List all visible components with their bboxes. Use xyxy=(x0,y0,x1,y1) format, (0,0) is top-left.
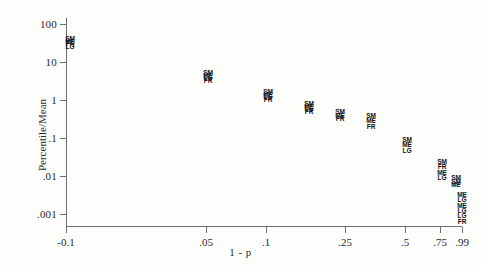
x-tick-label: .1 xyxy=(262,236,270,248)
data-cluster: SM ME FR xyxy=(335,110,345,121)
y-tick-mark xyxy=(60,214,66,215)
data-cluster: SM ME FR xyxy=(366,113,376,129)
y-tick-label: .01 xyxy=(43,170,57,182)
y-tick-mark xyxy=(60,24,66,25)
y-tick-label: .001 xyxy=(37,208,57,220)
data-marker-fr: FR xyxy=(305,111,313,114)
data-cluster: ME LG ME LG LG FR xyxy=(457,192,467,224)
data-cluster: SM ME LG FR xyxy=(203,72,213,83)
data-marker-lg: LG xyxy=(66,46,75,49)
x-axis-line xyxy=(66,226,462,227)
data-marker-me: ME xyxy=(451,183,461,187)
x-tick-label: .5 xyxy=(401,236,409,248)
x-tick-mark xyxy=(66,227,67,233)
x-tick-mark xyxy=(462,227,463,233)
data-cluster: SM FR ME LG xyxy=(437,159,447,180)
data-marker-fr: FR xyxy=(264,99,272,102)
x-tick-mark xyxy=(206,227,207,233)
data-marker-fr: FR xyxy=(204,80,212,83)
x-tick-label: -0.1 xyxy=(57,236,74,248)
data-cluster: SM ME FR LG xyxy=(65,38,75,49)
y-axis-title: Percentile/Mean xyxy=(36,98,48,170)
data-marker-fr: FR xyxy=(367,124,375,129)
y-tick-mark xyxy=(60,100,66,101)
data-cluster: SM SM ME xyxy=(451,176,461,187)
x-tick-mark xyxy=(440,227,441,233)
y-tick-mark xyxy=(60,62,66,63)
x-tick-label: .75 xyxy=(433,236,447,248)
y-tick-label: 1 xyxy=(51,94,57,106)
x-tick-label: .05 xyxy=(199,236,213,248)
data-cluster: SM ME LG FR xyxy=(263,91,273,102)
y-tick-label: 10 xyxy=(46,56,57,68)
y-tick-mark xyxy=(60,176,66,177)
x-tick-label: .99 xyxy=(455,236,469,248)
y-tick-label: 100 xyxy=(40,18,57,30)
data-marker-fr: FR xyxy=(336,117,344,121)
figure-canvas: Percentile/Mean 1 - p 100 10 1 .1 .01 .0… xyxy=(0,0,481,269)
y-tick-label: .1 xyxy=(48,132,57,144)
y-tick-mark xyxy=(60,138,66,139)
data-cluster: SM ME LG FR xyxy=(304,103,314,114)
x-tick-mark xyxy=(345,227,346,233)
data-cluster: SM ME LG xyxy=(402,137,412,153)
x-tick-mark xyxy=(405,227,406,233)
x-tick-label: .25 xyxy=(338,236,352,248)
x-tick-mark xyxy=(266,227,267,233)
data-marker-fr: FR xyxy=(458,219,466,224)
data-marker-lg: LG xyxy=(438,175,447,180)
data-marker-lg: LG xyxy=(403,148,412,153)
plot-area: 100 10 1 .1 .01 .001 -0.1 .05 .1 .25 .5 … xyxy=(66,18,462,227)
